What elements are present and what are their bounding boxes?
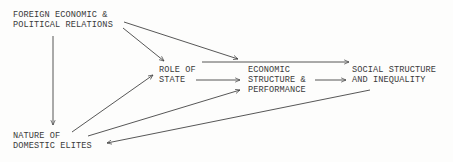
node-economic-structure: ECONOMIC STRUCTURE & PERFORMANCE <box>248 65 306 95</box>
node-label-line: PERFORMANCE <box>248 85 306 95</box>
arrow-social-to-elites <box>107 90 370 143</box>
node-social-structure: SOCIAL STRUCTURE AND INEQUALITY <box>352 65 436 85</box>
node-label-line: POLITICAL RELATIONS <box>13 20 113 30</box>
node-label-line: STRUCTURE & <box>248 75 306 85</box>
node-label-line: FOREIGN ECONOMIC & <box>13 10 113 20</box>
arrow-elites-to-state <box>72 75 153 132</box>
arrow-foreign-to-economic <box>124 22 238 59</box>
node-foreign-relations: FOREIGN ECONOMIC & POLITICAL RELATIONS <box>13 10 113 30</box>
node-label-line: ROLE OF <box>159 65 196 75</box>
causal-diagram: FOREIGN ECONOMIC & POLITICAL RELATIONS R… <box>0 0 453 162</box>
node-role-of-state: ROLE OF STATE <box>159 65 196 85</box>
node-label-line: SOCIAL STRUCTURE <box>352 65 436 75</box>
node-domestic-elites: NATURE OF DOMESTIC ELITES <box>13 131 92 151</box>
node-label-line: AND INEQUALITY <box>352 75 436 85</box>
node-label-line: NATURE OF <box>13 131 92 141</box>
node-label-line: DOMESTIC ELITES <box>13 141 92 151</box>
arrow-elites-to-economic <box>88 90 240 136</box>
node-label-line: STATE <box>159 75 196 85</box>
node-label-line: ECONOMIC <box>248 65 306 75</box>
